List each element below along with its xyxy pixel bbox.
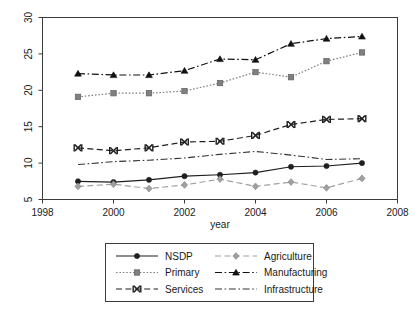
x-tick-label: 1998	[31, 207, 54, 218]
data-point-square	[324, 58, 329, 63]
y-tick-label: 10	[23, 157, 34, 169]
series-manufacturing	[75, 33, 366, 77]
data-point-square	[217, 80, 222, 85]
chart-legend: NSDPAgriculturePrimaryManufacturingServi…	[106, 244, 328, 302]
data-point-diamond	[181, 182, 187, 189]
data-point-triangle	[359, 33, 366, 39]
legend-label: NSDP	[165, 251, 193, 262]
legend-label: Infrastructure	[264, 284, 323, 295]
data-point-x-bar	[252, 132, 260, 139]
line-chart-canvas: 51015202530 199820002002200420062008 yea…	[0, 0, 419, 309]
x-tick-label: 2000	[102, 207, 125, 218]
x-tick-label: 2006	[315, 207, 338, 218]
data-point-diamond	[252, 183, 258, 190]
x-axis-title: year	[210, 219, 230, 230]
data-point-diamond	[288, 179, 294, 186]
data-point-triangle	[252, 57, 259, 63]
data-point-circle	[182, 174, 187, 179]
data-point-circle	[253, 170, 258, 175]
legend-label: Agriculture	[264, 251, 312, 262]
data-point-square	[111, 91, 116, 96]
y-tick-label: 25	[23, 48, 34, 60]
data-point-diamond	[217, 176, 223, 183]
data-point-triangle	[217, 56, 224, 62]
x-tick-label: 2004	[244, 207, 267, 218]
data-point-square	[253, 69, 258, 74]
series-services	[74, 115, 366, 154]
legend-label: Manufacturing	[264, 267, 327, 278]
y-tick-label: 5	[23, 196, 34, 202]
data-point-circle	[359, 161, 364, 166]
y-tick-label: 20	[23, 84, 34, 96]
data-series-group	[74, 33, 366, 192]
data-point-circle	[134, 253, 139, 258]
data-point-circle	[288, 164, 293, 169]
x-tick-label: 2008	[386, 207, 409, 218]
data-point-square	[359, 50, 364, 55]
series-infrastructure	[78, 151, 362, 164]
x-axis: 199820002002200420062008	[31, 200, 409, 218]
y-axis: 51015202530	[23, 12, 43, 203]
legend-label: Services	[165, 284, 203, 295]
legend-label: Primary	[165, 267, 199, 278]
series-line-infrastructure	[78, 151, 362, 164]
data-point-square	[146, 91, 151, 96]
data-point-square	[134, 270, 139, 275]
chart-figure: 51015202530 199820002002200420062008 yea…	[0, 0, 419, 309]
data-point-triangle	[323, 35, 330, 41]
y-tick-label: 30	[23, 12, 34, 24]
data-point-triangle	[181, 67, 188, 73]
y-tick-label: 15	[23, 121, 34, 133]
x-tick-label: 2002	[173, 207, 196, 218]
data-point-diamond	[146, 185, 152, 192]
series-agriculture	[75, 175, 365, 192]
data-point-circle	[146, 177, 151, 182]
series-line-services	[78, 119, 362, 151]
data-point-diamond	[75, 183, 81, 190]
data-point-square	[75, 94, 80, 99]
data-point-square	[182, 88, 187, 93]
data-point-circle	[324, 163, 329, 168]
data-point-diamond	[359, 175, 365, 182]
data-point-square	[288, 74, 293, 79]
data-point-diamond	[323, 184, 329, 191]
